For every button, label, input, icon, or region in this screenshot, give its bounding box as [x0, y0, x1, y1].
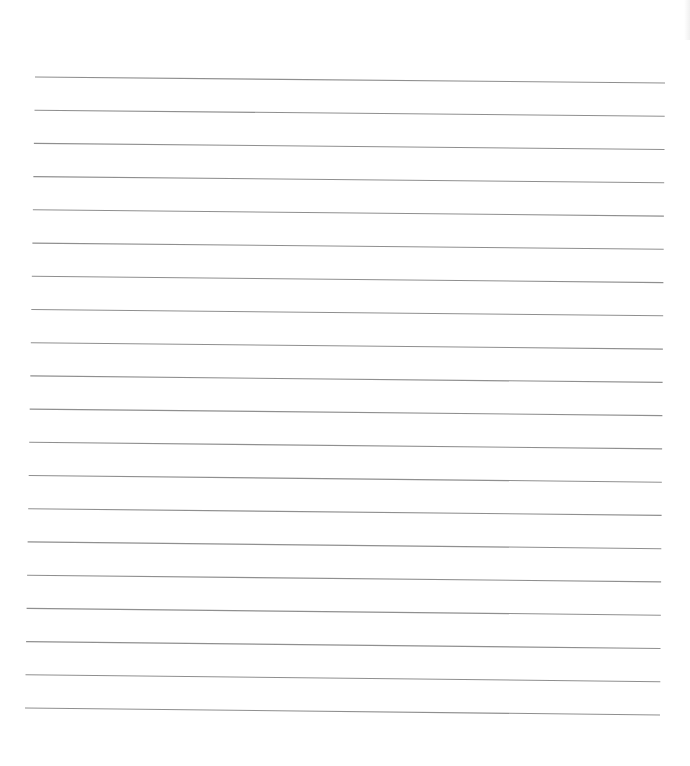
ruled-line	[33, 210, 664, 216]
ruled-line	[25, 708, 660, 715]
ruled-line	[28, 542, 662, 549]
ruled-line	[29, 476, 662, 483]
ruled-line	[28, 509, 661, 516]
ruled-line	[31, 310, 663, 316]
page-edge-shadow	[684, 0, 690, 40]
ruled-line	[26, 642, 660, 649]
lined-paper-page	[0, 0, 690, 766]
ruled-line	[30, 376, 662, 383]
ruled-line	[33, 177, 664, 183]
ruled-line	[32, 243, 663, 249]
ruled-line	[32, 276, 664, 282]
ruled-lines	[0, 0, 690, 766]
ruled-line	[31, 343, 663, 349]
ruled-line	[30, 409, 663, 416]
ruled-line	[35, 110, 665, 116]
ruled-line	[27, 608, 661, 615]
ruled-line	[27, 575, 661, 582]
ruled-line	[35, 77, 665, 83]
ruled-line	[29, 442, 662, 449]
ruled-line	[26, 675, 661, 682]
ruled-line	[34, 143, 665, 149]
